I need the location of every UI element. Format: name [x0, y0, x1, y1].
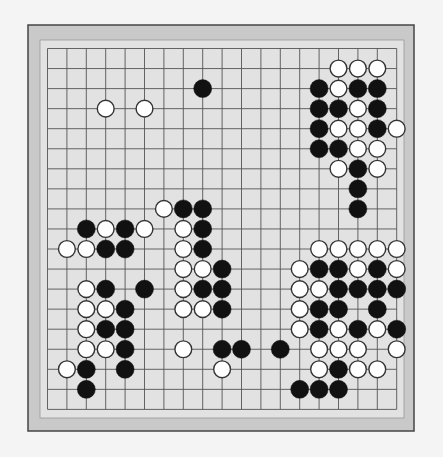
intersection[interactable] [233, 380, 251, 398]
intersection[interactable] [271, 120, 289, 138]
intersection[interactable] [174, 120, 192, 138]
go-board-svg[interactable] [0, 0, 443, 457]
intersection[interactable] [39, 160, 57, 178]
intersection[interactable] [291, 400, 309, 418]
intersection[interactable] [97, 160, 115, 178]
intersection[interactable] [252, 60, 270, 78]
intersection[interactable] [174, 60, 192, 78]
intersection[interactable] [233, 400, 251, 418]
intersection[interactable] [39, 320, 57, 338]
intersection[interactable] [252, 80, 270, 98]
intersection[interactable] [252, 40, 270, 58]
intersection[interactable] [388, 80, 406, 98]
intersection[interactable] [58, 260, 76, 278]
intersection[interactable] [310, 40, 328, 58]
intersection[interactable] [39, 400, 57, 418]
intersection[interactable] [233, 260, 251, 278]
intersection[interactable] [155, 360, 173, 378]
intersection[interactable] [368, 380, 386, 398]
intersection[interactable] [213, 320, 231, 338]
intersection[interactable] [39, 220, 57, 238]
intersection[interactable] [39, 360, 57, 378]
intersection[interactable] [97, 200, 115, 218]
intersection[interactable] [213, 120, 231, 138]
intersection[interactable] [349, 380, 367, 398]
intersection[interactable] [252, 140, 270, 158]
intersection[interactable] [136, 80, 154, 98]
intersection[interactable] [77, 120, 95, 138]
intersection[interactable] [58, 160, 76, 178]
intersection[interactable] [291, 100, 309, 118]
intersection[interactable] [58, 60, 76, 78]
intersection[interactable] [271, 140, 289, 158]
intersection[interactable] [271, 260, 289, 278]
intersection[interactable] [116, 280, 134, 298]
intersection[interactable] [368, 200, 386, 218]
intersection[interactable] [58, 40, 76, 58]
intersection[interactable] [271, 380, 289, 398]
intersection[interactable] [77, 260, 95, 278]
intersection[interactable] [233, 60, 251, 78]
intersection[interactable] [136, 120, 154, 138]
intersection[interactable] [213, 40, 231, 58]
intersection[interactable] [116, 180, 134, 198]
intersection[interactable] [271, 220, 289, 238]
intersection[interactable] [174, 140, 192, 158]
intersection[interactable] [77, 160, 95, 178]
intersection[interactable] [310, 60, 328, 78]
intersection[interactable] [174, 180, 192, 198]
intersection[interactable] [77, 60, 95, 78]
intersection[interactable] [116, 100, 134, 118]
intersection[interactable] [39, 100, 57, 118]
intersection[interactable] [39, 260, 57, 278]
intersection[interactable] [136, 40, 154, 58]
intersection[interactable] [252, 320, 270, 338]
intersection[interactable] [58, 340, 76, 358]
intersection[interactable] [39, 380, 57, 398]
intersection[interactable] [310, 160, 328, 178]
intersection[interactable] [213, 240, 231, 258]
intersection[interactable] [116, 200, 134, 218]
intersection[interactable] [155, 40, 173, 58]
intersection[interactable] [194, 340, 212, 358]
intersection[interactable] [116, 160, 134, 178]
intersection[interactable] [291, 40, 309, 58]
intersection[interactable] [116, 260, 134, 278]
intersection[interactable] [136, 140, 154, 158]
intersection[interactable] [136, 180, 154, 198]
intersection[interactable] [388, 400, 406, 418]
intersection[interactable] [310, 220, 328, 238]
intersection[interactable] [252, 260, 270, 278]
intersection[interactable] [136, 340, 154, 358]
intersection[interactable] [388, 40, 406, 58]
intersection[interactable] [213, 200, 231, 218]
intersection[interactable] [388, 180, 406, 198]
intersection[interactable] [194, 320, 212, 338]
intersection[interactable] [174, 360, 192, 378]
intersection[interactable] [155, 120, 173, 138]
intersection[interactable] [174, 160, 192, 178]
intersection[interactable] [39, 180, 57, 198]
intersection[interactable] [155, 400, 173, 418]
intersection[interactable] [291, 80, 309, 98]
intersection[interactable] [310, 200, 328, 218]
intersection[interactable] [291, 200, 309, 218]
intersection[interactable] [116, 400, 134, 418]
intersection[interactable] [77, 200, 95, 218]
intersection[interactable] [155, 260, 173, 278]
intersection[interactable] [194, 380, 212, 398]
intersection[interactable] [97, 380, 115, 398]
intersection[interactable] [97, 180, 115, 198]
intersection[interactable] [252, 200, 270, 218]
intersection[interactable] [271, 300, 289, 318]
intersection[interactable] [349, 400, 367, 418]
intersection[interactable] [291, 60, 309, 78]
intersection[interactable] [213, 60, 231, 78]
intersection[interactable] [155, 300, 173, 318]
go-board[interactable] [0, 0, 443, 457]
intersection[interactable] [77, 100, 95, 118]
intersection[interactable] [136, 60, 154, 78]
intersection[interactable] [155, 320, 173, 338]
intersection[interactable] [368, 40, 386, 58]
intersection[interactable] [349, 220, 367, 238]
